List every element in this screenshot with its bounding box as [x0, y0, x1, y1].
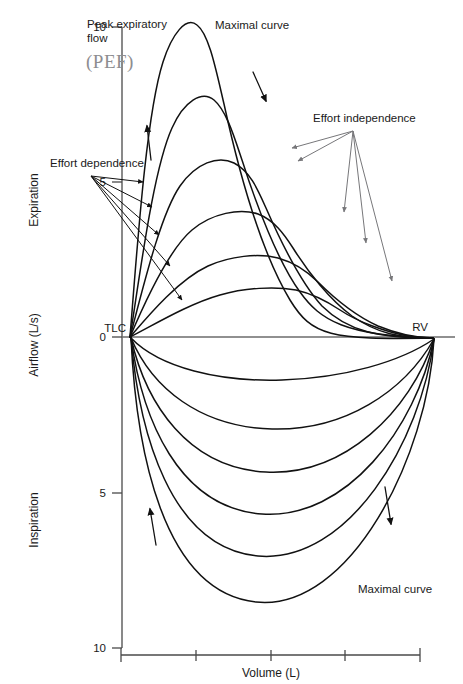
y-axis-section-label-expiration: Expiration: [27, 173, 41, 226]
pef-handwritten-annotation: (PEF): [86, 51, 134, 73]
point-label-rv: RV: [412, 321, 428, 333]
flow-volume-loop-figure: 10 5 0 5 10 Expiration Airflow (L/s) Ins…: [0, 0, 463, 684]
maximal-curve-inspiratory-label: Maximal curve: [358, 583, 432, 595]
maximal-curve-expiratory-label: Maximal curve: [215, 19, 289, 31]
effort-dependence-label: Effort dependence: [50, 157, 144, 169]
point-label-tlc: TLC: [104, 322, 126, 334]
figure-background: [0, 0, 463, 684]
peak-expiratory-flow-label-line1: Peak expiratory: [87, 18, 167, 30]
peak-expiratory-flow-label-line2: flow: [87, 32, 108, 44]
x-axis-title: Volume (L): [242, 666, 300, 680]
y-axis-section-label-inspiration: Inspiration: [27, 492, 41, 547]
y-tick-label-10-inspiration: 10: [93, 642, 106, 654]
y-axis-title: Airflow (L/s): [27, 313, 41, 376]
effort-independence-label: Effort independence: [313, 112, 416, 124]
y-tick-label-5-inspiration: 5: [100, 487, 106, 499]
